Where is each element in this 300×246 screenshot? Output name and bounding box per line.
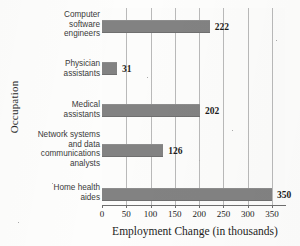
category-label-line: analysts	[14, 159, 100, 169]
bar-value-label: 202	[205, 106, 219, 116]
category-label: Medicalassistants	[14, 100, 100, 119]
category-label-line: Home health	[14, 183, 100, 193]
category-label-line: and data	[14, 140, 100, 150]
x-tick-label-250: 250	[217, 209, 231, 219]
category-label-line: assistants	[14, 69, 100, 79]
category-label-line: aides	[14, 193, 100, 203]
bar	[102, 20, 210, 33]
x-tick-label-350: 350	[265, 209, 279, 219]
bar	[102, 104, 200, 117]
x-tick-mark-200	[199, 205, 200, 208]
x-tick-label-200: 200	[192, 209, 206, 219]
x-tick-label-50: 50	[122, 209, 131, 219]
category-label-line: Medical	[14, 100, 100, 110]
bar-value-label: 222	[215, 22, 229, 32]
category-label-line: engineers	[14, 29, 100, 39]
category-label-line: Computer	[14, 10, 100, 20]
x-tick-mark-350	[272, 205, 273, 208]
category-label-line: communications	[14, 149, 100, 159]
bar-value-label: 126	[168, 146, 182, 156]
x-tick-mark-300	[248, 205, 249, 208]
x-tick-mark-250	[223, 205, 224, 208]
category-label: Network systemsand datacommunicationsana…	[14, 130, 100, 168]
bar-chart-figure: Occupation ComputersoftwareengineersPhys…	[0, 0, 300, 246]
x-tick-mark-100	[151, 205, 152, 208]
bar	[102, 188, 272, 201]
category-label-line: Network systems	[14, 130, 100, 140]
category-label-line: Physician	[14, 59, 100, 69]
bar-value-label: 350	[277, 190, 291, 200]
x-tick-mark-0	[102, 205, 103, 208]
gridline-300	[248, 8, 249, 205]
scan-speck	[18, 222, 19, 223]
x-tick-mark-50	[126, 205, 127, 208]
x-tick-label-300: 300	[241, 209, 255, 219]
category-label: Physicianassistants	[14, 59, 100, 78]
x-tick-label-150: 150	[168, 209, 182, 219]
x-axis-line	[102, 205, 286, 206]
bar-value-label: 31	[122, 64, 132, 74]
category-label: Home healthaides	[14, 183, 100, 202]
category-label-line: software	[14, 20, 100, 30]
plot-area: 22231202126350	[102, 8, 285, 205]
x-tick-label-0: 0	[100, 209, 105, 219]
x-tick-label-100: 100	[144, 209, 158, 219]
bar	[102, 144, 163, 157]
category-label: Computersoftwareengineers	[14, 10, 100, 39]
category-label-column: ComputersoftwareengineersPhysicianassist…	[14, 8, 100, 205]
gridline-250	[223, 8, 224, 205]
category-label-line: assistants	[14, 110, 100, 120]
x-tick-mark-150	[175, 205, 176, 208]
gridline-350	[272, 8, 273, 205]
x-axis-title: Employment Change (in thousands)	[102, 225, 288, 237]
bar	[102, 62, 117, 75]
